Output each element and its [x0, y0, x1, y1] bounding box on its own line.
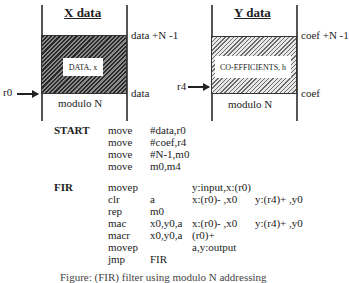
- start-line-arg: #N-1,m0: [150, 149, 189, 161]
- fir-line-x-move: (r0)+: [192, 230, 215, 242]
- start-line-op: move: [108, 149, 132, 161]
- x-data-block-label: DATA, x: [63, 58, 103, 76]
- fir-line-arg: m0: [150, 206, 164, 218]
- start-line-arg: #coef,r4: [150, 137, 186, 149]
- x-modulo-label: modulo N: [58, 97, 102, 109]
- y-memory-title: Y data: [234, 5, 271, 21]
- y-top-address: coef +N -1: [301, 29, 349, 41]
- fir-line-x-move: y:input,x:(r0): [192, 182, 251, 194]
- start-label: START: [54, 124, 89, 136]
- fir-line-op: rep: [108, 206, 122, 218]
- x-memory-title: X data: [64, 5, 101, 21]
- fir-line-y-move: y:(r4)+ ,y0: [255, 194, 303, 206]
- fir-line-arg: x0,y0,a: [150, 218, 182, 230]
- start-line-arg: m0,m4: [150, 161, 181, 173]
- x-top-address: data +N -1: [131, 29, 178, 41]
- fir-line-x-move: x:(r0)- ,x0: [192, 218, 237, 230]
- start-line-arg: #data,r0: [150, 125, 186, 137]
- r0-pointer-label: r0: [3, 86, 12, 98]
- start-line-op: move: [108, 161, 132, 173]
- y-coef-block-label: CO-EFFICIENTS, h: [215, 56, 291, 78]
- fir-line-arg: FIR: [150, 254, 167, 266]
- r4-arrow-icon: [188, 86, 209, 88]
- fir-line-op: mac: [108, 218, 126, 230]
- y-bottom-address: coef: [301, 87, 320, 99]
- y-modulo-label: modulo N: [228, 98, 272, 110]
- fir-line-op: movep: [108, 242, 138, 254]
- x-bottom-address: data: [131, 87, 149, 99]
- fir-line-x-move: x:(r0)- ,x0: [192, 194, 237, 206]
- fir-line-y-move: y:(r4)+ ,y0: [255, 218, 303, 230]
- fir-line-op: clr: [108, 194, 120, 206]
- r4-pointer-label: r4: [177, 80, 186, 92]
- fir-line-arg: a: [150, 194, 155, 206]
- start-line-op: move: [108, 137, 132, 149]
- fir-line-op: macr: [108, 230, 130, 242]
- figure-caption: Figure: (FIR) filter using modulo N addr…: [60, 271, 267, 283]
- fir-line-x-move: a,y:output: [192, 242, 236, 254]
- fir-line-arg: x0,y0,a: [150, 230, 182, 242]
- fir-line-op: movep: [108, 182, 138, 194]
- start-line-op: move: [108, 125, 132, 137]
- r0-arrow-icon: [17, 93, 38, 95]
- fir-line-op: jmp: [108, 254, 125, 266]
- fir-label: FIR: [54, 181, 73, 193]
